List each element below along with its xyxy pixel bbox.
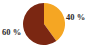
pie-label-40: 40 % [66, 13, 85, 22]
pie-chart-graphic [23, 3, 65, 45]
pie-svg [23, 3, 65, 45]
pie-label-60: 60 % [2, 28, 21, 37]
pie-chart-figure: 40 % 60 % [0, 0, 91, 49]
